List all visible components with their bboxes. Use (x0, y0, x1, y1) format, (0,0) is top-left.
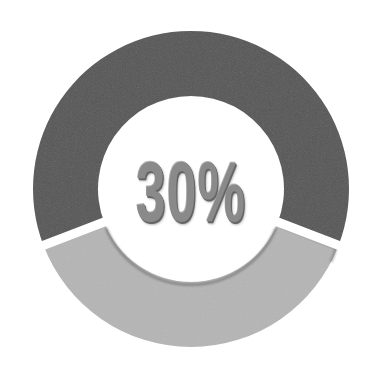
center-percentage-label: 30% (136, 148, 246, 234)
